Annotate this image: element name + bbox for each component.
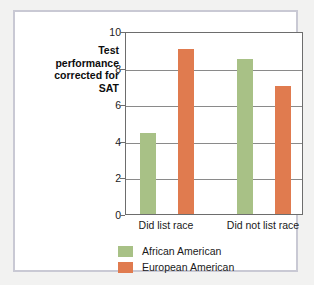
x-axis-category-label: Did not list race: [227, 219, 299, 231]
legend-item: European American: [118, 260, 234, 274]
y-axis-tick-labels: 0246810: [89, 32, 121, 215]
y-axis-tick-label: 4: [91, 136, 121, 148]
legend: African AmericanEuropean American: [118, 244, 234, 276]
figure-frame: Test performance corrected for SAT 02468…: [13, 10, 298, 272]
y-axis-tick-label: 2: [91, 172, 121, 184]
bar: [237, 59, 253, 214]
legend-item: African American: [118, 244, 234, 258]
y-axis-tick-label: 8: [91, 63, 121, 75]
bar: [140, 133, 156, 214]
legend-label: African American: [142, 245, 221, 257]
legend-swatch: [118, 246, 133, 257]
y-axis-tick-label: 0: [91, 209, 121, 221]
y-axis-tick-mark: [120, 215, 125, 216]
bar: [178, 49, 194, 214]
legend-label: European American: [142, 261, 234, 273]
gridline: [126, 70, 302, 71]
x-axis-category-label: Did list race: [139, 219, 194, 231]
legend-swatch: [118, 262, 133, 273]
y-axis-tick-label: 6: [91, 99, 121, 111]
y-axis-tick-label: 10: [91, 26, 121, 38]
plot-area: [125, 32, 303, 215]
bar: [275, 86, 291, 214]
